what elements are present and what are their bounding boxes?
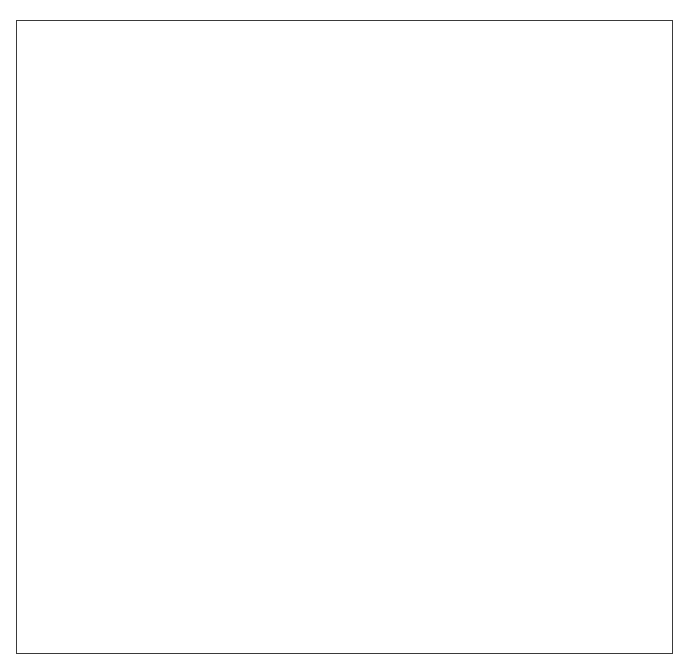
org-chart-canvas xyxy=(0,0,690,672)
connector-lines xyxy=(0,0,690,672)
